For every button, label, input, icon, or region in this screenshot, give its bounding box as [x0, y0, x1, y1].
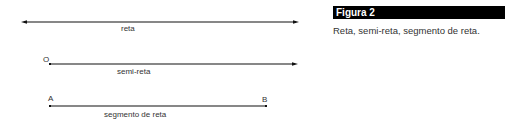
point-a-label: A: [48, 95, 53, 103]
semi-reta-label: semi-reta: [117, 68, 150, 76]
reta-label: reta: [121, 25, 135, 33]
origin-point-icon: [49, 63, 51, 65]
arrow-left-icon: [21, 20, 27, 23]
figure-caption: Reta, semi-reta, segmento de reta.: [333, 25, 505, 37]
arrow-right-icon: [293, 20, 299, 23]
arrow-right-icon: [292, 62, 298, 65]
geometry-diagram: reta O semi-reta A B segmento de reta: [0, 0, 320, 124]
point-a-icon: [49, 105, 51, 107]
origin-label: O: [43, 56, 49, 64]
semi-reta-line: [49, 62, 298, 65]
segmento-label: segmento de reta: [104, 111, 166, 119]
reta-line: [21, 20, 299, 23]
point-b-label: B: [262, 96, 267, 104]
point-b-icon: [265, 105, 267, 107]
figure-caption-panel: Figura 2 Reta, semi-reta, segmento de re…: [333, 6, 505, 37]
segmento-line: [49, 105, 267, 107]
figure-title: Figura 2: [333, 6, 505, 19]
